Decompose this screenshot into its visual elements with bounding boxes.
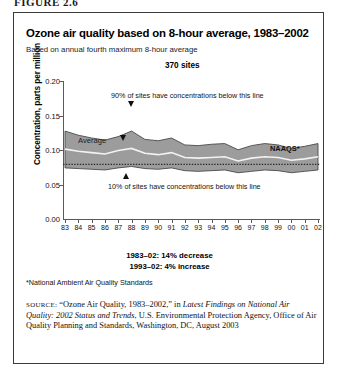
x-tick-mark-00 [291,220,292,223]
x-tick-label-83: 83 [61,224,69,231]
x-tick-label-93: 93 [194,224,202,231]
x-tick-mark-88 [132,220,133,223]
x-tick-label-84: 84 [74,224,82,231]
lower-percentile-annotation: 10% of sites have concentrations below t… [108,182,261,191]
x-tick-mark-02 [318,220,319,223]
x-tick-label-87: 87 [114,224,122,231]
x-tick-label-94: 94 [208,224,216,231]
figure-panel: Ozone air quality based on 8-hour averag… [13,12,324,364]
x-tick-mark-89 [145,220,146,223]
x-tick-label-89: 89 [141,224,149,231]
x-tick-mark-98 [265,220,266,223]
x-tick-label-91: 91 [168,224,176,231]
sites-count-label: 370 sites [165,61,200,70]
x-tick-mark-84 [78,220,79,223]
x-tick-mark-93 [198,220,199,223]
y-tick-label-0.10: 0.10 [14,146,60,155]
chart-plot: Concentration, parts per million 0.20 0.… [14,59,324,249]
footnote: *National Ambient Air Quality Standards [26,278,316,287]
x-tick-label-99: 99 [274,224,282,231]
trend-notes: 1983–02: 14% decrease 1993–02: 4% increa… [14,251,324,272]
figure-number: FIGURE 2.6 [14,0,78,8]
upper-annotation-arrow [128,101,134,107]
x-tick-mark-99 [278,220,279,223]
y-tick-label-0.20: 0.20 [14,77,60,86]
trend-note-1993: 1993–02: 4% increase [14,262,324,273]
x-tick-mark-96 [238,220,239,223]
x-tick-label-00: 00 [287,224,295,231]
x-tick-mark-01 [305,220,306,223]
trend-note-1983: 1983–02: 14% decrease [14,251,324,262]
upper-percentile-annotation: 90% of sites have concentrations below t… [111,91,264,100]
y-tick-label-0.15: 0.15 [14,111,60,120]
x-tick-mark-91 [172,220,173,223]
y-axis-title: Concentration, parts per million [32,29,42,179]
average-line-label: Average [78,136,106,145]
x-tick-label-98: 98 [261,224,269,231]
x-tick-label-90: 90 [154,224,162,231]
x-tick-mark-86 [105,220,106,223]
chart-subtitle: Based on annual fourth maximum 8-hour av… [26,45,316,54]
x-tick-label-95: 95 [221,224,229,231]
average-label-arrow [120,135,126,141]
naaqs-line-label: NAAQS* [270,144,300,153]
y-tick-label-0.00: 0.00 [14,215,60,224]
x-tick-mark-92 [185,220,186,223]
x-tick-mark-94 [212,220,213,223]
chart-title: Ozone air quality based on 8-hour averag… [26,27,316,40]
x-tick-mark-87 [118,220,119,223]
x-tick-mark-90 [158,220,159,223]
x-tick-label-92: 92 [181,224,189,231]
source-citation: SOURCE: “Ozone Air Quality, 1983–2002,” … [26,300,318,332]
x-tick-mark-83 [65,220,66,223]
x-tick-label-85: 85 [88,224,96,231]
x-tick-label-88: 88 [128,224,136,231]
x-tick-label-01: 01 [301,224,309,231]
source-part-1: “Ozone Air Quality, 1983–2002,” in [57,300,183,309]
x-tick-mark-95 [225,220,226,223]
x-tick-label-97: 97 [247,224,255,231]
y-tick-label-0.05: 0.05 [14,180,60,189]
x-tick-mark-97 [251,220,252,223]
x-tick-mark-85 [92,220,93,223]
x-tick-label-86: 86 [101,224,109,231]
source-keyword: SOURCE: [26,301,57,308]
x-tick-label-96: 96 [234,224,242,231]
x-tick-label-02: 02 [314,224,322,231]
lower-annotation-arrow [123,173,129,179]
